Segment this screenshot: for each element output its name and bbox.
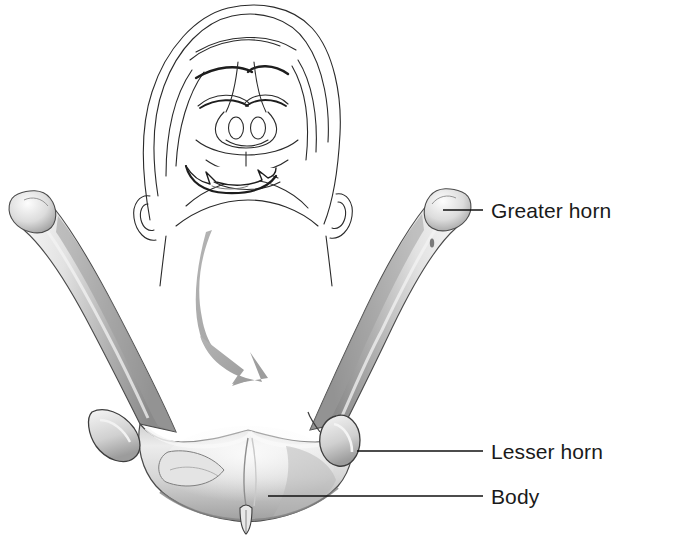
lesser-horn-left (89, 410, 140, 462)
figure-canvas: Greater horn Lesser horn Body (0, 0, 682, 538)
greater-horn-right (310, 189, 471, 430)
label-lesser-horn: Lesser horn (491, 440, 603, 464)
hyoid-bone-specimen (9, 189, 471, 534)
label-body: Body (491, 485, 539, 509)
label-greater-horn: Greater horn (491, 199, 611, 223)
orientation-arrow (196, 230, 268, 386)
head-inset (134, 5, 353, 286)
greater-horn-left (9, 191, 176, 432)
